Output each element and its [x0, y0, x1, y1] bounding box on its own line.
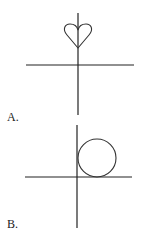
- circle-shape: [78, 139, 116, 177]
- figure-b-label: B.: [7, 218, 18, 230]
- figure-a-label: A.: [7, 111, 19, 123]
- figure-b: [25, 125, 132, 228]
- figure-canvas: [0, 0, 144, 232]
- figure-a: [26, 13, 134, 115]
